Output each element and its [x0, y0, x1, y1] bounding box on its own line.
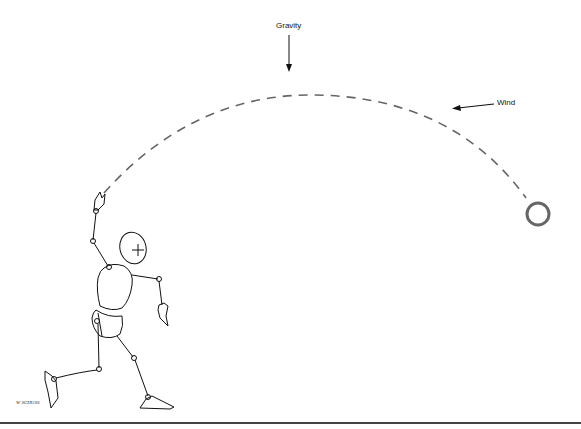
ball-icon [527, 203, 549, 225]
diagram-canvas: Gravity Wind W SCHUSS [0, 0, 581, 429]
diagram-svg [0, 0, 581, 429]
gravity-label: Gravity [276, 21, 301, 30]
thrower-figure-icon [45, 192, 174, 409]
trajectory-path [104, 95, 526, 198]
artist-signature: W SCHUSS [16, 400, 39, 405]
gravity-arrow-icon [286, 35, 292, 72]
wind-arrow-icon [452, 104, 494, 111]
wind-label: Wind [497, 98, 515, 107]
ground-line [0, 422, 581, 424]
